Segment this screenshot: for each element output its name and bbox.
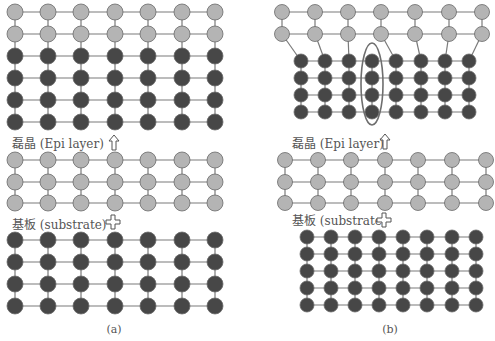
atom <box>414 105 428 119</box>
atom <box>140 276 156 292</box>
atom <box>414 54 428 68</box>
atom <box>348 247 362 261</box>
atom <box>389 88 403 102</box>
atom <box>420 230 434 244</box>
atom <box>294 105 308 119</box>
atom <box>475 27 490 42</box>
atom <box>140 26 156 42</box>
atom <box>7 92 23 108</box>
atom <box>107 92 123 108</box>
atom <box>207 232 223 248</box>
atom <box>140 232 156 248</box>
atom <box>107 4 123 20</box>
atom <box>40 26 56 42</box>
atom <box>174 48 190 64</box>
atom <box>342 71 356 85</box>
atom <box>40 232 56 248</box>
atom <box>207 174 223 190</box>
atom <box>73 174 89 190</box>
atom <box>140 70 156 86</box>
atom <box>445 230 459 244</box>
atom <box>308 5 323 20</box>
atom <box>445 298 459 312</box>
atom <box>365 71 379 85</box>
atom <box>374 27 389 42</box>
atom <box>445 196 460 211</box>
atom <box>73 114 89 130</box>
atom <box>445 153 460 168</box>
atom <box>442 27 457 42</box>
atom <box>324 230 338 244</box>
atom <box>348 281 362 295</box>
atom <box>378 175 393 190</box>
atom <box>174 254 190 270</box>
atom <box>445 247 459 261</box>
atom <box>445 264 459 278</box>
atom <box>372 264 386 278</box>
atom <box>378 196 393 211</box>
atom <box>300 247 314 261</box>
atom <box>318 54 332 68</box>
up-arrow-icon <box>109 135 119 150</box>
atom <box>107 114 123 130</box>
atom <box>7 114 23 130</box>
atom <box>365 105 379 119</box>
atom <box>342 88 356 102</box>
panel-a-substrate-block <box>7 232 223 314</box>
atom <box>348 298 362 312</box>
atom <box>174 70 190 86</box>
atom <box>311 196 326 211</box>
atom <box>300 264 314 278</box>
atom <box>462 88 476 102</box>
atom <box>140 298 156 314</box>
atom <box>207 152 223 168</box>
atom <box>107 174 123 190</box>
panel-a-epi-label: 磊晶 (Epi layer) <box>12 137 104 151</box>
atom <box>324 264 338 278</box>
atom <box>408 5 423 20</box>
atom <box>73 152 89 168</box>
atom <box>73 4 89 20</box>
atom <box>342 105 356 119</box>
atom <box>396 298 410 312</box>
atom <box>107 232 123 248</box>
atom <box>174 276 190 292</box>
atom <box>40 114 56 130</box>
atom <box>174 174 190 190</box>
atom <box>344 175 359 190</box>
atom <box>344 196 359 211</box>
atom <box>420 247 434 261</box>
atom <box>420 281 434 295</box>
atom <box>73 276 89 292</box>
atom <box>445 175 460 190</box>
atom <box>311 175 326 190</box>
diagram-canvas: 磊晶 (Epi layer) 基板 (substrate) (a) 磊晶 (Ep… <box>0 0 495 341</box>
atom <box>7 4 23 20</box>
atom <box>475 5 490 20</box>
atom <box>73 92 89 108</box>
atom <box>174 4 190 20</box>
atom <box>278 196 293 211</box>
atom <box>311 153 326 168</box>
atom <box>7 174 23 190</box>
atom <box>300 298 314 312</box>
atom <box>445 281 459 295</box>
atom <box>140 4 156 20</box>
atom <box>462 71 476 85</box>
atom <box>324 281 338 295</box>
atom <box>174 232 190 248</box>
atom <box>7 298 23 314</box>
atom <box>7 232 23 248</box>
atom <box>462 105 476 119</box>
atom <box>7 152 23 168</box>
atom <box>207 195 223 211</box>
atom <box>438 71 452 85</box>
atom <box>73 298 89 314</box>
atom <box>294 71 308 85</box>
atom <box>378 153 393 168</box>
atom <box>40 195 56 211</box>
panel-b-substrate-label: 基板 (substrate) <box>292 214 387 228</box>
panel-b-epi-label: 磊晶 (Epi layer) <box>292 137 384 151</box>
atom <box>73 26 89 42</box>
atom <box>411 175 426 190</box>
